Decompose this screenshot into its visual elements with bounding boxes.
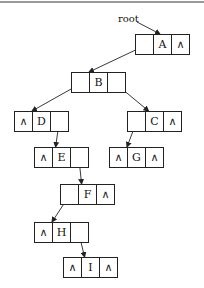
left-pointer-cell — [136, 35, 154, 55]
node-label: G — [132, 151, 141, 164]
node-label: H — [57, 226, 67, 239]
root-pointer: root — [118, 13, 160, 34]
tree-node-e: ∧E — [35, 148, 89, 168]
right-pointer-cell — [71, 148, 89, 168]
binary-tree-diagram: A∧B∧DC∧∧E∧G∧F∧∧H∧I∧ root — [0, 0, 204, 288]
node-label: I — [88, 261, 92, 274]
null-pointer-icon: ∧ — [104, 261, 112, 274]
tree-node-c: C∧ — [128, 112, 182, 132]
null-pointer-icon: ∧ — [114, 151, 122, 164]
right-pointer-cell — [108, 73, 126, 93]
tree-node-d: ∧D — [15, 112, 69, 132]
null-pointer-icon: ∧ — [39, 151, 47, 164]
left-pointer-cell — [128, 112, 146, 132]
node-label: E — [57, 151, 65, 164]
nodes-group: A∧B∧DC∧∧E∧G∧F∧∧H∧I∧ — [15, 35, 190, 278]
tree-node-b: B — [72, 73, 126, 93]
left-pointer-cell — [61, 185, 79, 205]
null-pointer-icon: ∧ — [68, 261, 76, 274]
node-label: F — [84, 188, 92, 201]
right-pointer-cell — [71, 223, 89, 243]
null-pointer-icon: ∧ — [168, 115, 176, 128]
left-pointer-cell — [72, 73, 90, 93]
tree-node-f: F∧ — [61, 185, 115, 205]
node-label: D — [37, 115, 46, 128]
node-label: A — [158, 38, 168, 51]
node-label: C — [150, 115, 158, 128]
null-pointer-icon: ∧ — [176, 38, 184, 51]
root-pointer-arrow — [137, 22, 160, 34]
null-pointer-icon: ∧ — [39, 226, 47, 239]
right-pointer-cell — [51, 112, 69, 132]
null-pointer-icon: ∧ — [150, 151, 158, 164]
node-label: B — [94, 76, 102, 89]
tree-node-h: ∧H — [35, 223, 89, 243]
tree-node-i: ∧I∧ — [64, 258, 118, 278]
null-pointer-icon: ∧ — [19, 115, 27, 128]
null-pointer-icon: ∧ — [101, 188, 109, 201]
tree-node-a: A∧ — [136, 35, 190, 55]
root-label: root — [118, 13, 139, 24]
tree-node-g: ∧G∧ — [110, 148, 164, 168]
